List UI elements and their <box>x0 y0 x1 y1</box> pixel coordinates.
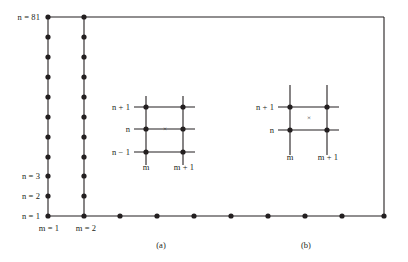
grid-node <box>45 34 50 39</box>
stencil-a-col-label-m1-text: m + 1 <box>174 162 194 172</box>
grid-node <box>117 213 122 218</box>
stencil-a-col-label-m: m <box>143 162 150 172</box>
caption-b: (b) <box>301 240 311 250</box>
caption-a: (a) <box>156 240 165 250</box>
grid-node <box>81 154 86 159</box>
stencil-node <box>180 104 185 109</box>
grid-node <box>191 213 196 218</box>
axis-label-m-1-text: m = 1 <box>39 223 59 233</box>
axis-label-n-2-text: n = 2 <box>22 191 40 201</box>
stencil-a-row-label-nm1: n − 1 <box>112 147 130 157</box>
grid-node <box>339 213 344 218</box>
grid-node <box>45 154 50 159</box>
grid-node <box>45 134 50 139</box>
grid-node <box>302 213 307 218</box>
stencil-a-col-label-m-text: m <box>143 162 150 172</box>
stencil-node <box>324 127 329 132</box>
stencil-b-col-label-m-text: m <box>287 152 294 162</box>
stencil-node <box>180 149 185 154</box>
axis-label-n-1-text: n = 1 <box>22 211 40 221</box>
stencil-node <box>180 126 185 131</box>
axis-label-m-2-text: m = 2 <box>76 223 96 233</box>
stencil-a-row-label-np1-text: n + 1 <box>112 102 130 112</box>
grid-node <box>81 94 86 99</box>
domain-frame <box>48 17 384 216</box>
stencil-node <box>143 104 148 109</box>
axis-label-n-81-text: n = 81 <box>18 12 40 22</box>
stencil-b-col-label-m1-text: m + 1 <box>318 152 338 162</box>
grid-node <box>45 213 50 218</box>
grid-node <box>154 213 159 218</box>
grid-node <box>381 213 386 218</box>
grid-node <box>81 14 86 19</box>
grid-node <box>265 213 270 218</box>
grid-node <box>45 74 50 79</box>
stencil-a-marker-glyph: × <box>163 125 167 133</box>
grid-node <box>45 14 50 19</box>
grid-diagram-svg <box>0 0 408 262</box>
stencil-node <box>143 126 148 131</box>
stencil-node <box>287 127 292 132</box>
stencil-a-row-label-nm1-text: n − 1 <box>112 147 130 157</box>
stencil-a-marker: × <box>163 125 167 133</box>
stencil-a-row-label-np1: n + 1 <box>112 102 130 112</box>
caption-b-text: (b) <box>301 240 311 250</box>
axis-label-n-3: n = 3 <box>22 171 40 181</box>
stencil-b-row-label-n-text: n <box>270 125 274 135</box>
axis-label-m-2: m = 2 <box>76 223 96 233</box>
grid-node <box>81 114 86 119</box>
grid-node <box>45 173 50 178</box>
stencil-b-col-label-m1: m + 1 <box>318 152 338 162</box>
grid-node <box>81 54 86 59</box>
stencil-b-marker: × <box>307 114 311 122</box>
grid-node <box>81 173 86 178</box>
stencil-b-row-label-n: n <box>270 125 274 135</box>
grid-node <box>81 213 86 218</box>
grid-node <box>45 193 50 198</box>
stencil-node <box>143 149 148 154</box>
stencil-node <box>324 104 329 109</box>
grid-node <box>81 134 86 139</box>
axis-label-n-3-text: n = 3 <box>22 171 40 181</box>
grid-node <box>45 94 50 99</box>
caption-a-text: (a) <box>156 240 165 250</box>
figure-root: n = 81 n = 3 n = 2 n = 1 m = 1 m = 2 n +… <box>0 0 408 262</box>
stencil-b-row-label-np1-text: n + 1 <box>256 102 274 112</box>
grid-node <box>45 114 50 119</box>
stencil-a-row-label-n: n <box>126 124 130 134</box>
grid-node <box>81 193 86 198</box>
stencil-b-col-label-m: m <box>287 152 294 162</box>
stencil-a-col-label-m1: m + 1 <box>174 162 194 172</box>
stencil-b-row-label-np1: n + 1 <box>256 102 274 112</box>
axis-label-n-81: n = 81 <box>18 12 40 22</box>
stencil-node <box>287 104 292 109</box>
grid-node <box>228 213 233 218</box>
stencil-b-marker-glyph: × <box>307 114 311 122</box>
grid-node <box>81 74 86 79</box>
axis-label-n-1: n = 1 <box>22 211 40 221</box>
stencil-a-row-label-n-text: n <box>126 124 130 134</box>
axis-label-m-1: m = 1 <box>39 223 59 233</box>
grid-node <box>81 34 86 39</box>
axis-label-n-2: n = 2 <box>22 191 40 201</box>
grid-node <box>45 54 50 59</box>
